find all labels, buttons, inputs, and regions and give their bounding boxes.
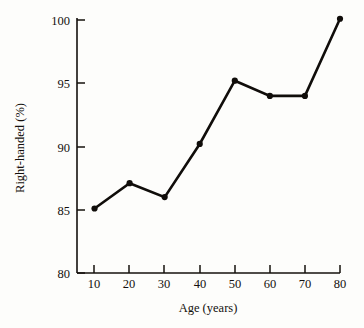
x-axis-title: Age (years) <box>179 301 238 315</box>
x-tick-label-20: 20 <box>123 277 136 291</box>
line-chart: 100 95 90 85 80 10 20 30 40 50 60 70 80 <box>0 0 364 328</box>
x-tick-label-80: 80 <box>334 277 347 291</box>
y-tick-label-90: 90 <box>58 141 71 155</box>
y-tick-label-80: 80 <box>58 267 71 281</box>
x-tick-label-30: 30 <box>158 277 171 291</box>
chart-figure: 100 95 90 85 80 10 20 30 40 50 60 70 80 <box>0 0 364 328</box>
data-point-20 <box>127 180 133 186</box>
y-tick-label-95: 95 <box>58 77 71 91</box>
data-point-10 <box>91 205 97 211</box>
x-tick-label-10: 10 <box>88 277 101 291</box>
data-point-50 <box>232 78 238 84</box>
x-tick-label-60: 60 <box>264 277 277 291</box>
x-tick-label-70: 70 <box>299 277 312 291</box>
data-point-40 <box>197 141 203 147</box>
data-point-70 <box>302 93 308 99</box>
x-tick-label-40: 40 <box>194 277 207 291</box>
data-point-30 <box>162 194 168 200</box>
y-tick-label-85: 85 <box>58 204 71 218</box>
y-tick-label-100: 100 <box>51 14 70 28</box>
y-axis-title: Right-handed (%) <box>13 103 27 193</box>
data-point-60 <box>267 93 273 99</box>
x-tick-label-50: 50 <box>229 277 242 291</box>
data-point-80 <box>337 16 343 22</box>
